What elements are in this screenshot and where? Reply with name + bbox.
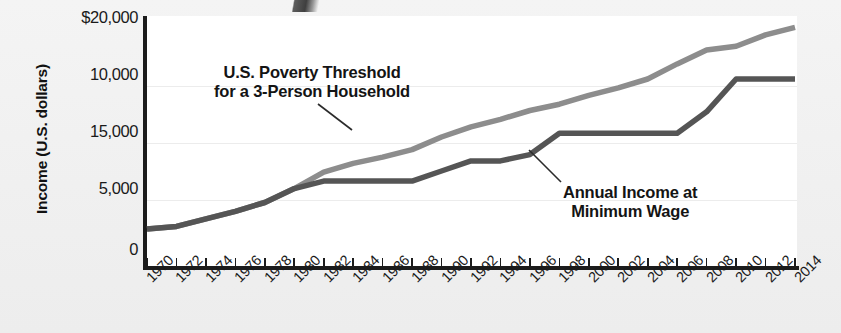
minimum-wage-annotation-line1: Annual Income at	[563, 183, 697, 202]
leader-line-poverty-threshold	[318, 104, 352, 130]
poverty-threshold-annotation-line1: U.S. Poverty Threshold	[214, 63, 410, 82]
poverty-threshold-annotation-line2: for a 3-Person Household	[214, 82, 410, 101]
minimum-wage-annotation: Annual Income at Minimum Wage	[563, 183, 697, 222]
series-line-poverty-threshold	[147, 27, 795, 229]
series-lines-layer	[0, 0, 841, 333]
poverty-threshold-annotation: U.S. Poverty Threshold for a 3-Person Ho…	[214, 63, 410, 102]
income-vs-poverty-line-chart: Income (U.S. dollars) $20,000 10,000 15,…	[0, 0, 841, 333]
minimum-wage-annotation-line2: Minimum Wage	[563, 202, 697, 221]
leader-line-minimum-wage	[529, 150, 561, 182]
